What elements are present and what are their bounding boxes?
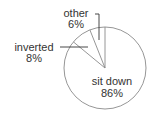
label-other-pct: 6%	[68, 18, 84, 30]
label-sitdown-name: sit down	[92, 75, 132, 87]
pie-chart: other 6% inverted 8% sit down 86%	[0, 0, 156, 115]
label-inverted-pct: 8%	[26, 52, 42, 64]
label-sitdown-pct: 86%	[101, 87, 123, 99]
